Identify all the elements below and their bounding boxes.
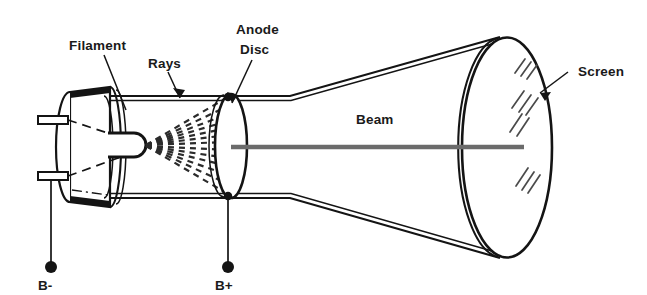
- filament-hairpin: [108, 133, 146, 157]
- pin-lower: [38, 172, 68, 180]
- label-b-plus: B+: [215, 278, 233, 293]
- filament: [108, 133, 146, 157]
- crt-diagram-canvas: Filament Rays Anode Disc Beam Screen B- …: [0, 0, 647, 295]
- label-rays: Rays: [148, 56, 181, 71]
- label-filament: Filament: [69, 38, 126, 53]
- crt-diagram: Filament Rays Anode Disc Beam Screen B- …: [0, 0, 647, 295]
- label-beam: Beam: [356, 112, 394, 127]
- pin-upper: [38, 116, 68, 124]
- label-screen: Screen: [578, 64, 624, 79]
- terminal-dot-b-minus: [45, 261, 57, 273]
- envelope-bottom-outer: [104, 198, 500, 258]
- base-body: [70, 87, 110, 207]
- label-anode-line1: Anode: [236, 22, 279, 37]
- label-anode-line2: Disc: [240, 42, 270, 57]
- terminal-dot-b-plus: [222, 261, 234, 273]
- base-left-cap: [56, 92, 70, 202]
- label-b-minus: B-: [38, 278, 52, 293]
